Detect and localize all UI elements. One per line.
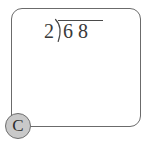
canvas: 2 6 8 C [0, 0, 149, 149]
corner-badge-c[interactable]: C [5, 113, 31, 139]
long-division-expression: 2 6 8 [44, 17, 88, 41]
divisor-value: 2 [44, 17, 54, 41]
corner-badge-label: C [12, 117, 23, 135]
vinculum-line [58, 20, 103, 21]
